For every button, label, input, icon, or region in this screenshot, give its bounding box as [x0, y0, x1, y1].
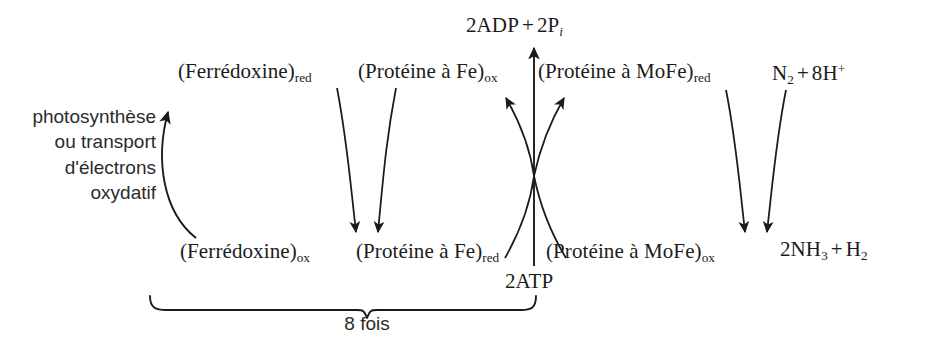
fe-protein-red-name: (Protéine à Fe) — [356, 239, 482, 263]
substrate-plus-sign: + — [794, 61, 812, 85]
ammonia-subscript: 3 — [821, 248, 828, 263]
mofe-protein-oxidation-arrow — [726, 90, 745, 232]
fe-protein-ox-state: ox — [484, 70, 497, 85]
product-label: 2NH3+H2 — [780, 238, 868, 263]
electron-input-arrow — [162, 112, 196, 238]
mofe-protein-ox-name: (Protéine à MoFe) — [546, 239, 702, 263]
ferredoxin-reduced-label: (Ferrédoxine)red — [178, 60, 312, 85]
fe-protein-reduction-arrow — [378, 88, 396, 232]
mofe-protein-reduced-label: (Protéine à MoFe)red — [538, 60, 711, 85]
energetics-plus-sign: + — [519, 13, 537, 37]
fe-protein-ox-name: (Protéine à Fe) — [358, 59, 484, 83]
dinitrogen-symbol: N — [772, 61, 787, 85]
mofe-protein-ox-state: ox — [702, 250, 715, 265]
ferredoxin-oxidized-label: (Ferrédoxine)ox — [180, 240, 310, 265]
ferredoxin-ox-state: ox — [297, 250, 310, 265]
proton-charge: + — [838, 61, 845, 76]
dihydrogen-subscript: 2 — [861, 248, 868, 263]
ferredoxin-red-name: (Ferrédoxine) — [178, 59, 295, 83]
adp-symbol: 2ADP — [466, 13, 519, 37]
ammonia-count: 2NH — [780, 237, 821, 261]
dinitrogen-reduction-arrow — [767, 90, 786, 232]
ferredoxin-red-state: red — [295, 70, 312, 85]
adp-phosphate-label: 2ADP+2Pi — [466, 14, 563, 39]
phosphate-symbol: 2P — [537, 13, 559, 37]
nitrogenase-electron-flow-diagram: photosynthèse ou transport d'électrons o… — [0, 0, 926, 356]
fe-protein-electron-donation-path — [505, 176, 534, 258]
fe-protein-oxidized-label: (Protéine à Fe)ox — [358, 60, 498, 85]
cycle-count-label: 8 fois — [322, 314, 412, 334]
phosphate-subscript: i — [559, 24, 563, 39]
fe-protein-oxidation-arrow — [506, 98, 534, 176]
electron-source-label: photosynthèse ou transport d'électrons o… — [8, 104, 156, 206]
dinitrogen-count: 2 — [787, 72, 794, 87]
mofe-protein-red-state: red — [694, 70, 711, 85]
product-plus-sign: + — [828, 237, 846, 261]
mofe-protein-oxidized-label: (Protéine à MoFe)ox — [546, 240, 715, 265]
dihydrogen-symbol: H — [846, 237, 861, 261]
mofe-protein-reduction-arrow — [534, 98, 564, 176]
mofe-protein-red-name: (Protéine à MoFe) — [538, 59, 694, 83]
atp-label: 2ATP — [505, 270, 553, 292]
substrate-label: N2+8H+ — [772, 62, 845, 87]
fe-protein-reduced-label: (Protéine à Fe)red — [356, 240, 499, 265]
ferredoxin-ox-name: (Ferrédoxine) — [180, 239, 297, 263]
ferredoxin-oxidation-arrow — [337, 88, 356, 232]
proton-count: 8H — [812, 61, 838, 85]
fe-protein-red-state: red — [482, 250, 499, 265]
